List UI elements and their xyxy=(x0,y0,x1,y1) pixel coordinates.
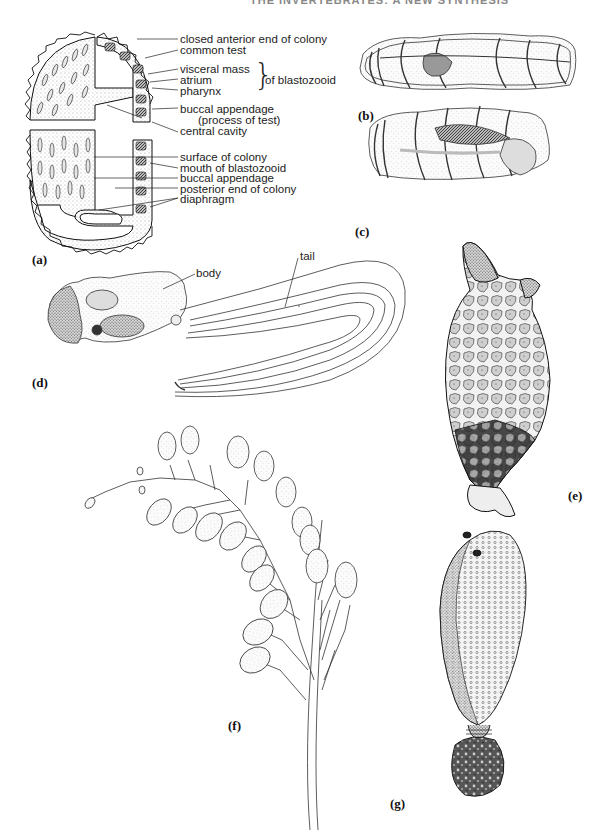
label-common-test: common test xyxy=(180,44,246,56)
panel-label-b: (b) xyxy=(358,108,374,124)
larva-d-illustration xyxy=(48,258,405,397)
label-body: body xyxy=(196,267,221,279)
panel-label-c: (c) xyxy=(355,224,369,240)
label-diaphragm: diaphragm xyxy=(180,193,234,205)
label-pharynx: pharynx xyxy=(180,85,221,97)
sea-squirt-g-illustration xyxy=(440,531,526,796)
panel-label-d: (d) xyxy=(32,375,48,391)
label-central-cavity: central cavity xyxy=(180,125,247,137)
label-of-blastozooid: of blastozooid xyxy=(265,74,336,86)
panel-label-g: (g) xyxy=(390,796,405,812)
label-tail: tail xyxy=(300,250,315,262)
salp-c-illustration xyxy=(369,106,550,180)
salp-b-illustration xyxy=(360,33,576,89)
colony-section-illustration xyxy=(0,0,602,836)
panel-label-a: (a) xyxy=(32,252,47,268)
panel-label-f: (f) xyxy=(228,718,241,734)
colony-upper-half xyxy=(25,32,153,122)
zooid-pods-f xyxy=(83,426,357,678)
panel-label-e: (e) xyxy=(568,488,582,504)
colony-lower-half xyxy=(26,130,152,254)
sea-squirt-e-illustration xyxy=(445,242,550,516)
